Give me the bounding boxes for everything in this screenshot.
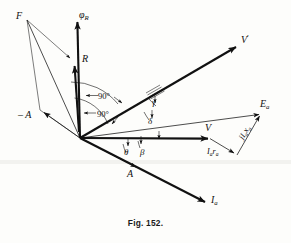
- label-E-a-glyph: E: [259, 98, 266, 109]
- label-E-a-sub: a: [266, 103, 270, 110]
- label-angle-90-lower: 90°: [97, 109, 110, 119]
- figure-root: F φR R – A A V′ V Ea Ia Iara jIaxa 90° 9…: [0, 0, 291, 243]
- label-A: A: [126, 168, 134, 179]
- paper-scan-band: [0, 160, 291, 164]
- figure-caption: Fig. 152.: [128, 218, 163, 228]
- phasor-diagram: F φR R – A A V′ V Ea Ia Iara jIaxa 90° 9…: [0, 0, 291, 243]
- label-phi-R-sub: R: [84, 14, 90, 21]
- label-Ia-ra-sub2: a: [216, 151, 219, 157]
- label-minus-A: – A: [17, 109, 32, 120]
- label-angle-90-upper: 90°: [98, 91, 111, 101]
- label-angle-beta: β: [139, 147, 145, 157]
- label-I-a-sub: a: [214, 199, 218, 206]
- label-V-prime-mark: ′: [247, 34, 249, 43]
- label-angle-gamma: γ: [152, 97, 156, 107]
- vector-V: [80, 138, 208, 139]
- label-angle-theta: θ: [124, 147, 129, 157]
- label-F: F: [15, 10, 23, 21]
- label-R: R: [81, 53, 88, 64]
